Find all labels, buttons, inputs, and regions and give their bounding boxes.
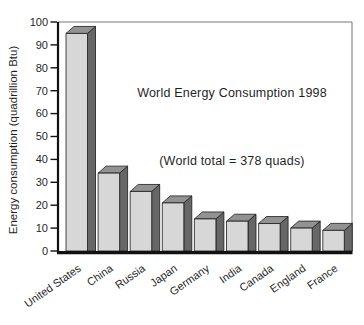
x-label-england: England: [268, 262, 308, 295]
bar-france: [323, 230, 345, 251]
y-tick-label-70: 70: [36, 85, 48, 97]
bar-united-states: [66, 33, 88, 251]
bar-russia: [130, 191, 152, 251]
bar-japan: [162, 203, 184, 251]
y-tick-label-50: 50: [36, 130, 48, 142]
x-label-russia: Russia: [113, 261, 148, 291]
bar-side-united-states: [88, 26, 96, 251]
y-tick-label-60: 60: [36, 107, 48, 119]
y-tick-label-80: 80: [36, 62, 48, 74]
energy-consumption-chart: 0102030405060708090100United StatesChina…: [0, 0, 364, 325]
x-label-china: China: [85, 261, 116, 288]
y-tick-label-90: 90: [36, 39, 48, 51]
bar-canada: [259, 224, 281, 251]
chart-title: World Energy Consumption 1998: [104, 86, 360, 100]
bar-side-russia: [152, 184, 160, 251]
bar-england: [291, 228, 313, 251]
bar-side-china: [120, 166, 128, 251]
x-label-france: France: [305, 262, 340, 291]
world-total-annotation: (World total = 378 quads): [104, 154, 360, 168]
bar-germany: [194, 219, 216, 251]
bar-side-japan: [184, 196, 192, 251]
y-axis-label: Energy consumption (quadrillion Btu): [7, 46, 19, 235]
bar-china: [98, 173, 120, 251]
bar-india: [227, 221, 249, 251]
y-tick-label-20: 20: [36, 199, 48, 211]
y-tick-label-0: 0: [42, 245, 48, 257]
y-tick-label-100: 100: [30, 16, 48, 28]
y-tick-label-10: 10: [36, 222, 48, 234]
y-tick-label-40: 40: [36, 153, 48, 165]
y-tick-label-30: 30: [36, 176, 48, 188]
x-label-united-states: United States: [22, 262, 83, 310]
